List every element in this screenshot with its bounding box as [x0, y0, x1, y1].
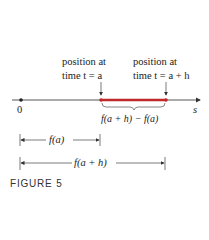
- fa-label: f(a): [49, 134, 64, 146]
- origin-dot: [19, 98, 23, 102]
- left-label-line2: time t = a: [62, 70, 102, 82]
- brace: [102, 103, 165, 110]
- fah-label: f(a + h): [74, 157, 107, 169]
- figure-caption: FIGURE 5: [10, 178, 63, 189]
- difference-label: f(a + h) − f(a): [101, 113, 158, 125]
- right-label-line1: position at: [133, 56, 177, 68]
- left-label-line1: position at: [62, 56, 106, 68]
- right-label-line2: time t = a + h: [133, 70, 189, 82]
- origin-label: 0: [17, 104, 22, 116]
- axis-label: s: [193, 104, 197, 116]
